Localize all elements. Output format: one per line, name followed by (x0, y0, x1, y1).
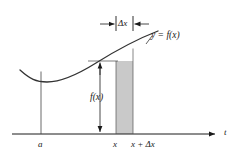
delta-x-label: Δx (118, 19, 127, 28)
delta-x-strip-shading (116, 61, 133, 134)
figure-container: Δx y = f(x) f(x) a x x + Δx t (0, 0, 235, 165)
t-axis-label: t (224, 128, 227, 137)
left-bound-label: a (38, 140, 43, 149)
height-label: f(x) (90, 93, 103, 103)
curve-equation-label: y = f(x) (151, 31, 180, 41)
strip-right-label: x + Δx (131, 140, 155, 149)
strip-left-label: x (113, 140, 117, 149)
